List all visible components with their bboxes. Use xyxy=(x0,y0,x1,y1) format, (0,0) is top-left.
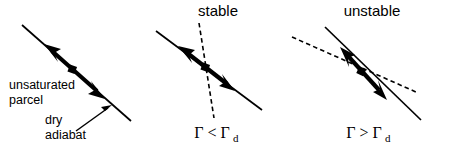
panel-stable-formula: Γ < Γ d xyxy=(194,124,239,144)
diagram-canvas: unsaturated parcel dry adiabat stable xyxy=(0,0,450,149)
dry-adiabat-pointer-arrow-head xyxy=(101,105,112,111)
panel-unstable-formula-text: Γ > Γ xyxy=(346,124,382,141)
panel-stable-formula-text: Γ < Γ xyxy=(194,124,230,141)
dry-adiabat-label-line2: adiabat xyxy=(45,128,87,142)
dry-adiabat-label-line1: dry xyxy=(45,113,63,127)
stability-diagram-figure: unsaturated parcel dry adiabat stable xyxy=(0,0,450,149)
panel-neutral: unsaturated parcel dry adiabat xyxy=(9,25,131,142)
panel-unstable-title: unstable xyxy=(344,2,401,19)
panel-stable-formula-subscript: d xyxy=(233,132,239,144)
panel-stable-title: stable xyxy=(198,2,238,19)
panel-unstable: unstable Γ > Γ d xyxy=(292,2,421,144)
panel-stable: stable Γ < Γ d xyxy=(156,2,262,144)
panel2-down-arrow-head xyxy=(219,74,235,91)
unsaturated-parcel-label-line2: parcel xyxy=(9,93,43,107)
dry-adiabat-pointer-line xyxy=(76,108,108,131)
panel-unstable-formula: Γ > Γ d xyxy=(346,124,391,144)
unsaturated-parcel-label-line1: unsaturated xyxy=(9,78,75,92)
panel-unstable-formula-subscript: d xyxy=(385,132,391,144)
